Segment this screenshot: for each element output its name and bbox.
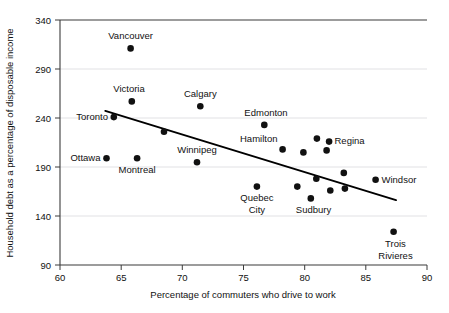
point-label-hamilton: Hamilton — [240, 133, 278, 144]
data-point-vancouver[interactable] — [127, 45, 134, 52]
y-tick-label-140: 140 — [35, 211, 51, 222]
y-tick-label-240: 240 — [35, 113, 51, 124]
y-axis-title: Household debt as a percentage of dispos… — [4, 28, 15, 257]
data-point-regina[interactable] — [326, 138, 333, 145]
x-axis-title: Percentage of commuters who drive to wor… — [150, 289, 336, 300]
data-point-unlabeled-4[interactable] — [323, 147, 330, 154]
data-point-unlabeled-8[interactable] — [342, 185, 349, 192]
data-point-hamilton[interactable] — [279, 146, 286, 153]
data-point-montreal[interactable] — [134, 155, 141, 162]
data-point-winnipeg[interactable] — [194, 159, 201, 166]
data-point-victoria[interactable] — [129, 98, 136, 105]
point-label-calgary: Calgary — [184, 88, 217, 99]
data-point-unlabeled-6[interactable] — [313, 176, 320, 183]
point-label-victoria: Victoria — [113, 83, 145, 94]
data-point-ottawa[interactable] — [103, 155, 110, 162]
x-tick-label-60: 60 — [55, 272, 66, 283]
data-point-trois-rivieres[interactable] — [390, 228, 397, 235]
plot-area: 340 290 240 190 140 90 60 65 70 75 80 85… — [0, 0, 449, 313]
point-label-windsor: Windsor — [382, 174, 417, 185]
point-labels: Vancouver Victoria Calgary Toronto Edmon… — [70, 30, 416, 261]
x-tick-labels: 60 65 70 75 80 85 90 — [55, 272, 433, 283]
data-point-quebec-city[interactable] — [254, 183, 261, 190]
data-point-edmonton[interactable] — [261, 122, 268, 129]
data-point-unlabeled-5[interactable] — [341, 170, 348, 177]
point-label-sudbury: Sudbury — [296, 204, 332, 215]
data-point-unlabeled-1[interactable] — [161, 129, 168, 136]
y-tick-label-340: 340 — [35, 15, 51, 26]
point-label-edmonton: Edmonton — [244, 107, 287, 118]
data-point-unlabeled-9[interactable] — [327, 187, 334, 194]
x-tick-label-85: 85 — [361, 272, 372, 283]
data-point-unlabeled-2[interactable] — [314, 135, 321, 142]
point-label-quebec-city-line1: Quebec — [240, 192, 274, 203]
y-tick-label-290: 290 — [35, 64, 51, 75]
y-tick-labels: 340 290 240 190 140 90 — [35, 15, 51, 271]
scatter-chart: 340 290 240 190 140 90 60 65 70 75 80 85… — [0, 0, 449, 313]
point-label-vancouver: Vancouver — [108, 30, 153, 41]
x-tick-label-70: 70 — [177, 272, 188, 283]
data-point-unlabeled-3[interactable] — [300, 149, 307, 156]
point-label-ottawa: Ottawa — [70, 152, 101, 163]
data-point-toronto[interactable] — [111, 114, 118, 121]
data-point-sudbury[interactable] — [308, 195, 315, 202]
point-label-quebec-city-line2: City — [249, 204, 266, 215]
y-tick-label-190: 190 — [35, 162, 51, 173]
y-tick-label-90: 90 — [40, 260, 51, 271]
data-point-unlabeled-7[interactable] — [294, 183, 301, 190]
point-label-regina: Regina — [335, 135, 366, 146]
x-tick-label-75: 75 — [238, 272, 249, 283]
y-tick-marks — [55, 20, 60, 265]
point-label-trois-rivieres-line2: Rivieres — [378, 250, 413, 261]
data-point-windsor[interactable] — [372, 177, 379, 184]
x-tick-marks — [60, 265, 427, 270]
data-point-calgary[interactable] — [197, 103, 204, 110]
x-tick-label-80: 80 — [299, 272, 310, 283]
point-label-montreal: Montreal — [119, 164, 156, 175]
point-label-trois-rivieres-line1: Trois — [385, 238, 406, 249]
point-label-toronto: Toronto — [76, 111, 108, 122]
trend-line — [105, 111, 396, 200]
point-label-winnipeg: Winnipeg — [177, 144, 217, 155]
x-tick-label-65: 65 — [116, 272, 127, 283]
x-tick-label-90: 90 — [422, 272, 433, 283]
